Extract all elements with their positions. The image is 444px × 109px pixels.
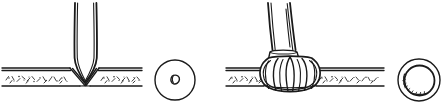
v-section-circle xyxy=(155,60,195,100)
petal-bulb-head xyxy=(260,56,320,91)
twin-stem-shaft xyxy=(268,3,296,50)
strip-speckle-left xyxy=(6,76,68,84)
v-notch-edges xyxy=(70,68,99,86)
v-groove-joint-panel xyxy=(2,3,195,100)
strip-speckle-left xyxy=(229,76,263,83)
strip-speckle-right xyxy=(319,76,379,83)
figure-root xyxy=(0,0,444,109)
bulb-head-joint-panel xyxy=(226,3,440,101)
technical-drawing-svg xyxy=(0,0,444,109)
tapered-v-tool xyxy=(74,3,97,82)
annulus-section-circle xyxy=(398,59,440,101)
strip-speckle-right xyxy=(101,76,140,83)
